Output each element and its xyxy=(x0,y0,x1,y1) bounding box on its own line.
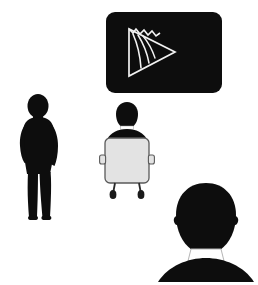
wheelchair-caster-left xyxy=(110,190,117,199)
wheelchair-figure xyxy=(94,100,160,200)
foreground-figure xyxy=(154,182,258,285)
foreground-shoulders xyxy=(158,258,254,282)
wheelchair-head xyxy=(116,102,138,127)
wheelchair-armrest-left xyxy=(100,155,106,164)
wheelchair-caster-right xyxy=(138,190,145,199)
mountain-slope-icon xyxy=(124,25,180,80)
wheelchair-armrest-right xyxy=(148,155,154,164)
standing-figure xyxy=(16,94,66,220)
foreground-head xyxy=(176,183,236,250)
wheelchair-backrest xyxy=(105,138,149,183)
scene-canvas: Presentation scene silhouette illustrati… xyxy=(0,0,258,285)
display-board[interactable] xyxy=(106,12,222,93)
